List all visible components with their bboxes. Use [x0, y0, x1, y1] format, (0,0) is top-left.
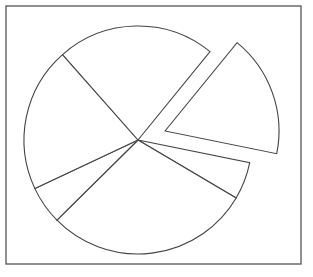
pie-slices [24, 26, 279, 254]
pie-chart [0, 0, 313, 277]
